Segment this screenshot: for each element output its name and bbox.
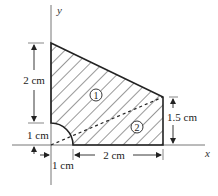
dimension-cutout-horizontal: 1 cm	[40, 155, 74, 171]
svg-text:2: 2	[135, 122, 140, 133]
svg-text:1.5 cm: 1.5 cm	[167, 111, 197, 123]
svg-text:2 cm: 2 cm	[23, 74, 45, 86]
svg-text:2 cm: 2 cm	[103, 149, 125, 161]
composite-area-diagram: y x 1 2 2 cm 1 cm 1 cm 2 cm	[0, 0, 218, 196]
region-1-label: 1	[90, 89, 102, 101]
region-2-label: 2	[131, 121, 143, 133]
x-axis-label: x	[204, 147, 210, 159]
y-axis-label: y	[56, 4, 62, 16]
dimension-left-height: 2 cm	[23, 43, 45, 123]
dimension-cutout-vertical: 1 cm	[27, 129, 49, 154]
dimension-bottom-width: 2 cm	[73, 149, 163, 161]
svg-text:1: 1	[94, 90, 99, 101]
svg-text:1 cm: 1 cm	[52, 159, 74, 171]
dimension-right-height: 1.5 cm	[167, 97, 197, 143]
shaded-region	[40, 35, 170, 150]
svg-text:1 cm: 1 cm	[27, 129, 49, 141]
